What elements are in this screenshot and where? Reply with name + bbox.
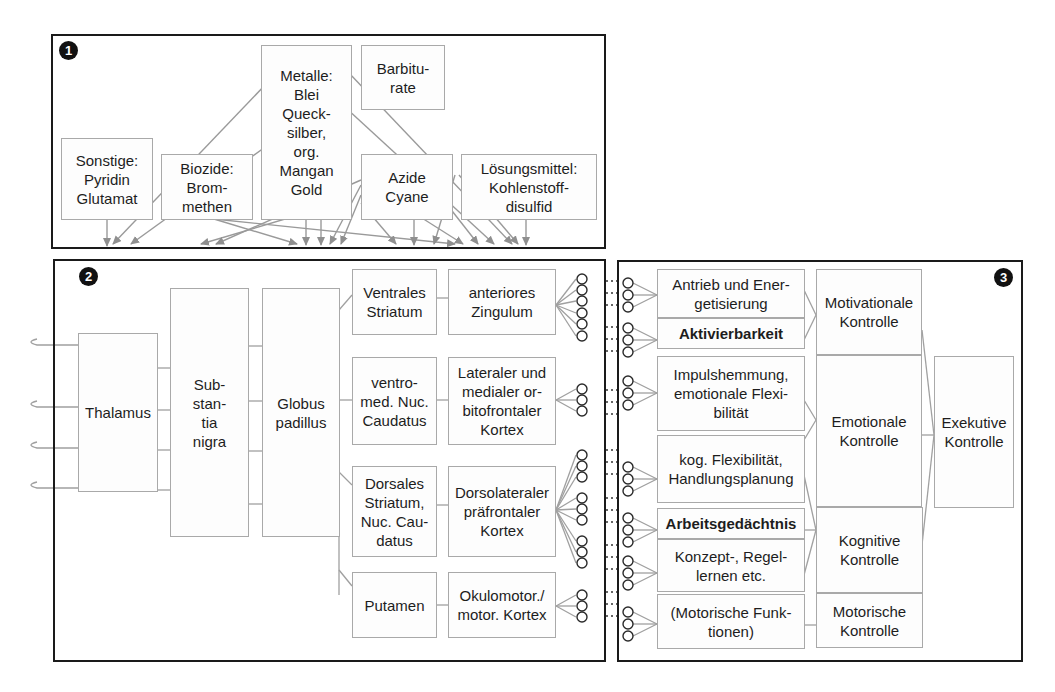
box-globus-padillus: Globus padillus xyxy=(262,288,340,537)
panel3-badge: 3 xyxy=(994,268,1013,287)
box-exekutive-kontrolle: Exekutive Kontrolle xyxy=(934,356,1014,508)
box-antrieb: Antrieb und Ener- getisierung xyxy=(657,269,805,318)
box-motorische-funktionen: (Motorische Funk- tionen) xyxy=(657,594,805,649)
box-anteriores-zingulum: anteriores Zingulum xyxy=(448,269,556,335)
box-emotionale-kontrolle: Emotionale Kontrolle xyxy=(816,355,922,507)
box-motivationale-kontrolle: Motivationale Kontrolle xyxy=(816,269,922,355)
box-dorsales-striatum: Dorsales Striatum, Nuc. Cau- datus xyxy=(352,466,437,557)
panel1-badge: 1 xyxy=(59,41,78,60)
box-okulomotor-kortex: Okulomotor./ motor. Kortex xyxy=(448,572,556,638)
box-arbeitsgedaechtnis: Arbeitsgedächtnis xyxy=(657,508,805,539)
box-thalamus: Thalamus xyxy=(78,333,158,492)
box-barbiturate: Barbitu- rate xyxy=(361,45,445,110)
box-sonstige: Sonstige: Pyridin Glutamat xyxy=(61,138,153,220)
box-ventromed-caudatus: ventro- med. Nuc. Caudatus xyxy=(352,357,437,445)
box-ventrales-striatum: Ventrales Striatum xyxy=(352,269,437,335)
box-azide: Azide Cyane xyxy=(361,154,453,220)
box-kog-flexibilitaet: kog. Flexibilität, Handlungsplanung xyxy=(657,435,805,503)
box-konzept-lernen: Konzept-, Regel- lernen etc. xyxy=(657,539,805,592)
box-impulshemmung: Impulshemmung, emotionale Flexi- bilität xyxy=(657,356,805,431)
box-kognitive-kontrolle: Kognitive Kontrolle xyxy=(816,507,923,593)
box-motorische-kontrolle: Motorische Kontrolle xyxy=(816,593,923,648)
panel2-badge: 2 xyxy=(79,267,98,286)
box-orbitofrontal-kortex: Lateraler und medialer or- bitofrontaler… xyxy=(448,357,556,445)
box-biozide: Biozide: Brom- methen xyxy=(161,154,253,220)
box-putamen: Putamen xyxy=(352,572,437,638)
box-substantia-nigra: Sub- stan- tia nigra xyxy=(170,288,249,537)
box-dorsolateral-kortex: Dorsolateraler präfrontaler Kortex xyxy=(448,466,556,557)
box-loesungsmittel: Lösungsmittel: Kohlenstoff- disulfid xyxy=(461,154,597,220)
box-metalle: Metalle: Blei Queck- silber, org. Mangan… xyxy=(261,45,352,220)
dotted-links xyxy=(606,281,617,616)
box-aktivierbarkeit: Aktivierbarkeit xyxy=(657,318,805,349)
